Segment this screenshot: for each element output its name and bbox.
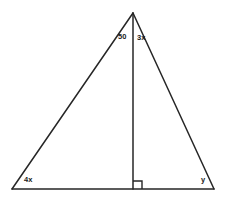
angle-label-apex-right: 3x [137,34,146,42]
angle-label-base-right: y [201,176,205,184]
triangle-side-left [12,13,133,189]
angle-label-apex-left: 50 [118,33,127,41]
geometry-figure: 50 3x 4x y [0,0,227,202]
right-angle-marker-icon [133,181,142,189]
angle-label-base-left: 4x [24,176,33,184]
triangle-diagram-svg [0,0,227,202]
